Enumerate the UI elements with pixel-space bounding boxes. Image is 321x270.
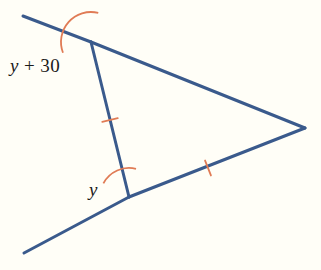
upper-angle-variable: y (10, 55, 19, 76)
figure-background (0, 0, 321, 270)
lower-angle-label: y (89, 180, 97, 199)
geometry-canvas (0, 0, 321, 270)
upper-angle-label: y + 30 (10, 56, 60, 75)
upper-angle-constant: 30 (40, 55, 60, 76)
geometry-figure: y + 30 y (0, 0, 321, 270)
upper-angle-operator: + (24, 55, 35, 76)
